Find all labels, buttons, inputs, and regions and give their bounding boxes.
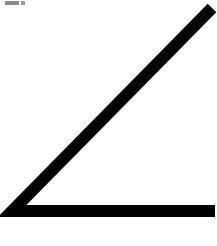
angle-shape [12, 8, 215, 211]
angle-diagram [0, 0, 217, 246]
